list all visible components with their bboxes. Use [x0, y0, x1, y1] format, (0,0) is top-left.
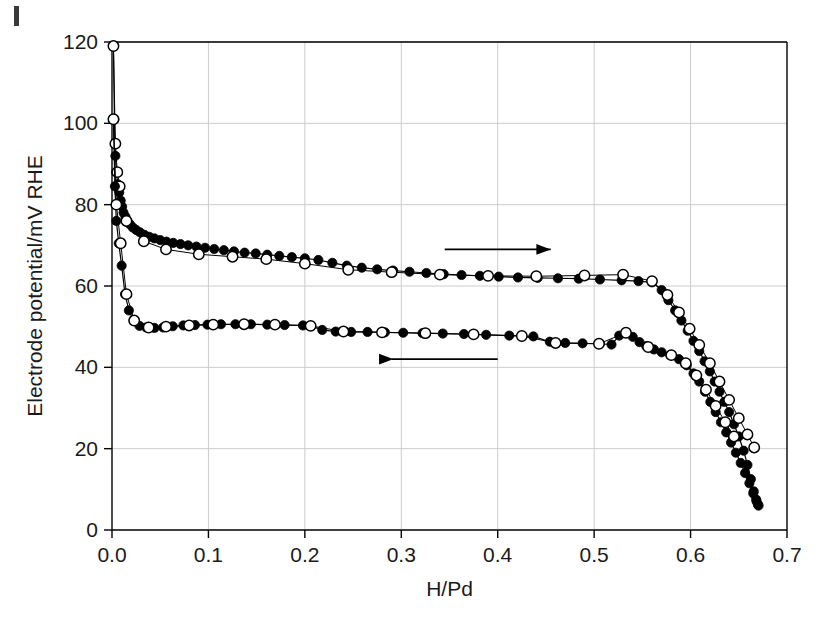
data-point-open — [338, 326, 348, 336]
data-point-open — [300, 258, 310, 268]
data-point-open — [208, 319, 218, 329]
data-point-open — [194, 249, 204, 259]
data-point-open — [270, 319, 280, 329]
data-point-open — [121, 289, 131, 299]
x-tick-label: 0.6 — [676, 543, 705, 566]
data-point-open — [115, 238, 125, 248]
data-point-filled — [731, 448, 740, 457]
x-tick-label: 0.7 — [772, 543, 801, 566]
data-point-open — [691, 370, 701, 380]
data-point-open — [710, 401, 720, 411]
x-tick-label: 0.0 — [97, 543, 126, 566]
data-point-open — [111, 199, 121, 209]
data-point-open — [110, 138, 120, 148]
data-point-open — [531, 271, 541, 281]
y-tick-label: 80 — [75, 193, 98, 216]
data-point-filled — [210, 244, 219, 253]
data-point-open — [749, 442, 759, 452]
data-point-filled — [725, 407, 734, 416]
data-point-open — [139, 236, 149, 246]
x-tick-label: 0.1 — [194, 543, 223, 566]
data-point-filled — [740, 468, 749, 477]
series-desorption-open — [108, 114, 739, 442]
data-point-open — [714, 376, 724, 386]
y-tick-label: 100 — [63, 111, 98, 134]
data-point-filled — [529, 332, 538, 341]
data-point-filled — [405, 267, 414, 276]
data-point-open — [112, 167, 122, 177]
data-point-filled — [328, 258, 337, 267]
data-point-filled — [373, 265, 382, 274]
data-point-open — [377, 327, 387, 337]
data-point-open — [143, 322, 153, 332]
y-axis-title: Electrode potential/mV RHE — [23, 155, 46, 416]
data-point-filled — [607, 340, 616, 349]
data-point-filled — [110, 182, 119, 191]
y-tick-label: 20 — [75, 437, 98, 460]
data-point-open — [647, 276, 657, 286]
data-point-filled — [494, 272, 503, 281]
data-point-filled — [251, 249, 260, 258]
data-point-open — [129, 315, 139, 325]
data-point-filled — [275, 251, 284, 260]
data-point-filled — [736, 458, 745, 467]
x-tick-label: 0.5 — [580, 543, 609, 566]
x-tick-label: 0.4 — [483, 543, 513, 566]
data-point-open — [184, 320, 194, 330]
x-tick-label: 0.3 — [387, 543, 416, 566]
data-point-filled — [318, 325, 327, 334]
data-point-open — [621, 328, 631, 338]
data-point-open — [724, 395, 734, 405]
y-tick-label: 60 — [75, 274, 98, 297]
data-point-filled — [111, 151, 120, 160]
data-point-filled — [184, 241, 193, 250]
data-point-open — [239, 319, 249, 329]
data-point-open — [643, 342, 653, 352]
data-point-filled — [657, 348, 666, 357]
series-line — [113, 119, 758, 505]
data-point-filled — [754, 501, 763, 510]
data-point-open — [343, 265, 353, 275]
data-point-open — [227, 252, 237, 262]
data-point-open — [550, 338, 560, 348]
data-point-filled — [513, 273, 522, 282]
data-point-open — [483, 271, 493, 281]
data-point-open — [108, 114, 118, 124]
data-point-open — [517, 331, 527, 341]
data-point-open — [662, 290, 672, 300]
data-point-open — [705, 358, 715, 368]
y-tick-label: 0 — [86, 518, 98, 541]
x-tick-label: 0.2 — [290, 543, 319, 566]
data-point-open — [121, 216, 131, 226]
data-point-open — [734, 413, 744, 423]
y-tick-label: 40 — [75, 355, 98, 378]
chart-plot: 0204060801001200.00.10.20.30.40.50.60.7H… — [0, 0, 832, 622]
data-point-open — [701, 385, 711, 395]
data-point-open — [742, 429, 752, 439]
data-point-open — [684, 324, 694, 334]
data-point-filled — [219, 246, 228, 255]
data-point-filled — [112, 216, 121, 225]
data-point-open — [674, 307, 684, 317]
series-desorption-filled — [109, 115, 763, 511]
data-point-filled — [314, 255, 323, 264]
data-point-open — [729, 431, 739, 441]
data-point-open — [618, 269, 628, 279]
page-corner-mark — [14, 6, 19, 26]
data-point-open — [261, 254, 271, 264]
data-point-filled — [422, 268, 431, 277]
data-point-open — [681, 358, 691, 368]
data-point-open — [720, 417, 730, 427]
data-point-filled — [745, 479, 754, 488]
data-point-open — [694, 340, 704, 350]
data-point-open — [579, 270, 589, 280]
grid-lines — [112, 42, 787, 530]
data-point-open — [305, 321, 315, 331]
data-point-open — [594, 339, 604, 349]
data-point-filled — [553, 274, 562, 283]
data-point-open — [161, 321, 171, 331]
data-point-open — [108, 41, 118, 51]
data-point-open — [666, 350, 676, 360]
data-point-open — [420, 328, 430, 338]
data-point-open — [468, 329, 478, 339]
